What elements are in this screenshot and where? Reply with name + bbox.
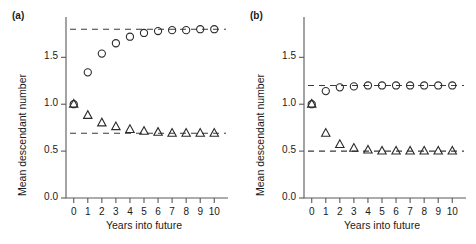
y-tick-label: 1.0 <box>18 97 58 108</box>
y-tick-label: 0.5 <box>18 144 58 155</box>
data-point-triangle <box>168 129 176 137</box>
data-point-triangle <box>210 129 218 137</box>
x-tick-label: 10 <box>200 206 228 217</box>
y-tick-label: 0.0 <box>18 191 58 202</box>
data-point-circle <box>140 29 147 36</box>
data-point-triangle <box>420 146 428 154</box>
data-point-triangle <box>378 146 386 154</box>
data-point-triangle <box>406 146 414 154</box>
data-point-triangle <box>434 146 442 154</box>
data-point-triangle <box>364 145 372 153</box>
y-tick-label: 0.5 <box>256 144 296 155</box>
panel-a: (a) Mean descendant number Years into fu… <box>0 0 238 244</box>
axis-spines <box>304 17 466 198</box>
data-point-triangle <box>98 118 106 126</box>
panel-a-y-axis-label: Mean descendant number <box>16 74 28 196</box>
data-point-triangle <box>336 140 344 148</box>
data-point-circle <box>112 40 119 47</box>
panel-b: (b) Mean descendant number Years into fu… <box>238 0 476 244</box>
y-tick-label: 1.0 <box>256 97 296 108</box>
panel-b-y-axis-label: Mean descendant number <box>254 74 266 196</box>
data-point-triangle <box>392 146 400 154</box>
y-tick-label: 0.0 <box>256 191 296 202</box>
y-tick-label: 1.5 <box>256 50 296 61</box>
data-point-circle <box>126 33 133 40</box>
panel-a-label: (a) <box>12 10 24 21</box>
data-point-triangle <box>126 125 134 133</box>
data-point-circle <box>322 87 329 94</box>
data-point-circle <box>84 69 91 76</box>
panel-b-x-axis-label: Years into future <box>294 219 470 231</box>
figure-container: (a) Mean descendant number Years into fu… <box>0 0 476 244</box>
data-point-circle <box>350 83 357 90</box>
data-point-triangle <box>182 129 190 137</box>
data-point-triangle <box>154 128 162 136</box>
axis-spines <box>66 17 228 198</box>
data-point-circle <box>154 27 161 34</box>
y-tick-label: 1.5 <box>18 50 58 61</box>
data-point-triangle <box>84 111 92 119</box>
data-point-circle <box>98 50 105 57</box>
data-point-triangle <box>196 129 204 137</box>
panel-b-label: (b) <box>250 10 263 21</box>
data-point-triangle <box>112 122 120 130</box>
x-tick-label: 10 <box>438 206 466 217</box>
data-point-triangle <box>322 129 330 137</box>
data-point-circle <box>336 84 343 91</box>
data-point-triangle <box>448 146 456 154</box>
data-point-circle <box>169 27 176 34</box>
panel-a-x-axis-label: Years into future <box>56 219 232 231</box>
data-point-circle <box>183 27 190 34</box>
data-point-triangle <box>350 144 358 152</box>
